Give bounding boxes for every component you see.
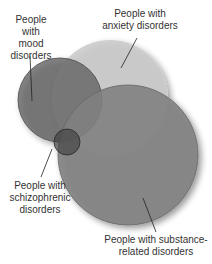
mood-label-line: disorders [6, 50, 56, 62]
substance-label-line: People with substance- [104, 234, 208, 246]
anxiety-label-line: People with [100, 8, 180, 20]
schizophrenic-label-line: schizophrenic [8, 192, 72, 204]
schizophrenic-label: People with schizophrenic disorders [8, 180, 72, 216]
schizophrenic-label-line: People with [8, 180, 72, 192]
anxiety-label-line: anxiety disorders [100, 20, 180, 32]
substance-label: People with substance- related disorders [104, 234, 208, 258]
schizophrenic-circle [54, 129, 80, 155]
mood-label-line: mood [6, 38, 56, 50]
substance-label-line: related disorders [104, 246, 208, 258]
anxiety-label: People with anxiety disorders [100, 8, 180, 32]
mood-label-line: People with [6, 14, 56, 38]
mood-label: People with mood disorders [6, 14, 56, 62]
schizophrenic-pointer [41, 149, 52, 177]
schizophrenic-label-line: disorders [8, 204, 72, 216]
substance-circle [58, 85, 198, 225]
